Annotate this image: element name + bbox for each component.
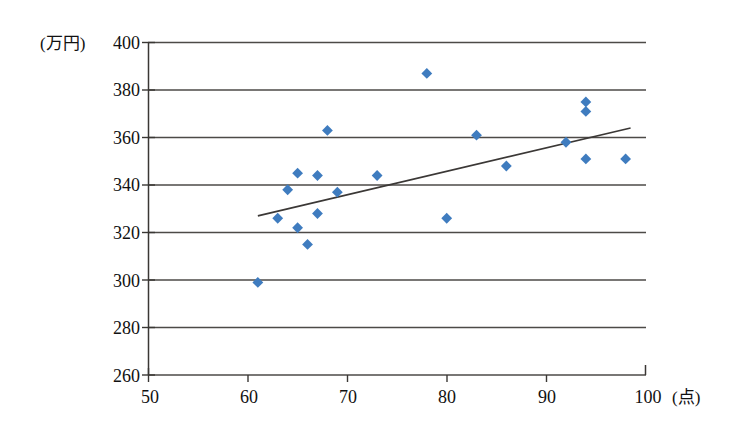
data-point (292, 222, 303, 233)
data-point (580, 153, 591, 164)
x-tick-label-100: 100 (635, 387, 662, 407)
data-point (561, 137, 572, 148)
data-point (302, 239, 313, 250)
x-tick-label-60: 60 (240, 387, 258, 407)
y-tick-label-400: 400 (113, 33, 140, 53)
y-axis-unit-label: (万円) (40, 34, 85, 53)
y-tick-label-380: 380 (113, 80, 140, 100)
y-tick-label-340: 340 (113, 175, 140, 195)
x-tick-label-50: 50 (141, 387, 159, 407)
x-axis-unit-label: (点) (672, 388, 700, 407)
data-point (580, 106, 591, 117)
x-tick-label-90: 90 (538, 387, 556, 407)
data-point (292, 168, 303, 179)
trend-line (258, 128, 631, 216)
y-tick-label-360: 360 (113, 128, 140, 148)
y-tick-label-260: 260 (113, 366, 140, 386)
data-point (441, 213, 452, 224)
y-tick-label-300: 300 (113, 271, 140, 291)
y-tick-label-280: 280 (113, 318, 140, 338)
data-points-layer (252, 68, 631, 288)
data-point (272, 213, 283, 224)
data-point (620, 153, 631, 164)
data-point (312, 208, 323, 219)
data-point (501, 161, 512, 172)
data-point (282, 184, 293, 195)
x-tick-label-80: 80 (438, 387, 456, 407)
y-tick-label-320: 320 (113, 223, 140, 243)
data-point (471, 130, 482, 141)
data-point (372, 170, 383, 181)
data-point (312, 170, 323, 181)
scatter-plot: (万円) 400 380 360 340 320 300 280 260 (0, 0, 738, 440)
data-point (252, 277, 263, 288)
data-point (580, 96, 591, 107)
data-point (322, 125, 333, 136)
x-tick-label-70: 70 (339, 387, 357, 407)
data-point (421, 68, 432, 79)
scatter-chart-container: (万円) 400 380 360 340 320 300 280 260 (0, 0, 738, 440)
